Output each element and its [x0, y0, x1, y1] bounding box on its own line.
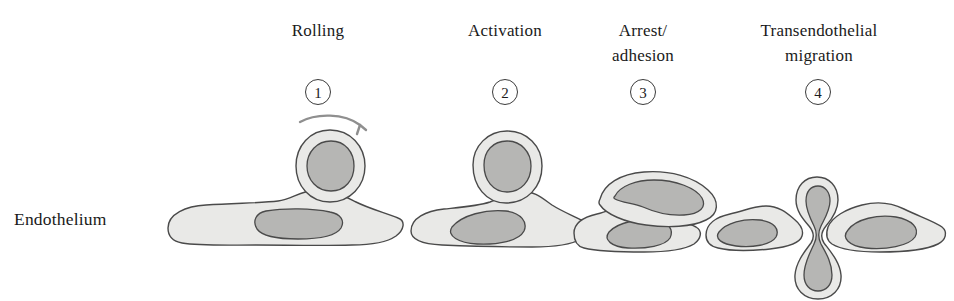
endothelial-cell-4b [827, 203, 946, 252]
stage-number-3: 3 [631, 80, 656, 105]
stage-number-2: 2 [493, 80, 518, 105]
endothelial-nucleus-1 [255, 209, 343, 239]
stage-number-1: 1 [306, 80, 331, 105]
stage-number-2-text: 2 [501, 85, 509, 101]
cell-illustration: 1 2 3 4 [0, 0, 954, 301]
diagram-canvas: Endothelium Rolling Activation Arrest/ a… [0, 0, 954, 301]
leukocyte-nucleus-1 [307, 141, 354, 191]
leukocyte-2 [473, 131, 542, 203]
leukocyte-nucleus-2 [484, 141, 531, 192]
stage-number-4-text: 4 [814, 85, 822, 101]
stage-number-3-text: 3 [639, 85, 647, 101]
stage-number-1-text: 1 [314, 85, 322, 101]
endothelial-cell-4a [706, 206, 803, 250]
stage-number-4: 4 [806, 80, 831, 105]
endothelial-cell-1 [168, 190, 403, 246]
leukocyte-1 [296, 130, 365, 202]
